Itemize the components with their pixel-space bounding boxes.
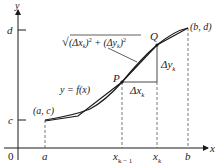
x-axis-label: x (209, 142, 215, 154)
svg-text:(Δxk)2 + (Δyk)2: (Δxk)2 + (Δyk)2 (69, 37, 126, 49)
svg-text:√: √ (62, 35, 69, 49)
label-Q: Q (150, 30, 158, 42)
y-axis-label: y (14, 0, 20, 11)
label-end-point: (b, d) (190, 21, 212, 33)
label-start-point: (a, c) (33, 105, 55, 117)
arc-length-diagram: x y 0 d c a xk − 1 xk b Q P (b, d) (a, c… (0, 0, 219, 167)
origin-label: 0 (8, 150, 14, 162)
delta-y-label: Δyk (160, 58, 176, 73)
label-P: P (112, 72, 120, 84)
point-P (120, 80, 123, 83)
tick-label-c: c (8, 114, 13, 126)
delta-x-label: Δxk (129, 84, 145, 99)
tick-label-b: b (185, 150, 191, 162)
tick-label-xk: xk (152, 150, 162, 165)
tick-label-a: a (42, 150, 48, 162)
formula-leader (108, 48, 137, 62)
point-Q (155, 43, 158, 46)
tick-label-xkm1: xk − 1 (112, 150, 133, 165)
segment-length-formula: √ (Δxk)2 + (Δyk)2 (62, 35, 141, 49)
curve-label: y = f(x) (59, 84, 91, 96)
tick-label-d: d (7, 24, 13, 36)
